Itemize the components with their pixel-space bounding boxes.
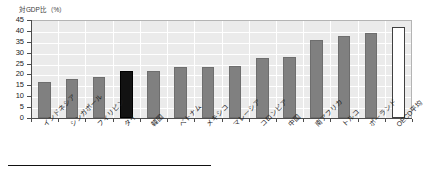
footer-divider (8, 165, 211, 166)
y-axis-tick-label: 40 (4, 27, 24, 35)
chart-axis-title: 対GDP比（%） (19, 6, 66, 14)
y-axis-tick-label: 15 (4, 81, 24, 89)
y-axis-tick-label: 25 (4, 60, 24, 68)
bar-中国 (283, 57, 296, 118)
bar-タイ (120, 71, 133, 118)
y-axis-tick-label: 10 (4, 92, 24, 100)
bar-コロンビア (256, 58, 269, 118)
bar-南アフリカ (310, 40, 323, 118)
bar-ポーランド (365, 33, 378, 118)
y-axis-tick-label: 45 (4, 16, 24, 24)
y-axis-tick-label: 35 (4, 38, 24, 46)
y-axis-tick-label: 30 (4, 49, 24, 57)
bar-韓国 (147, 71, 160, 118)
bar-インドネシア (38, 82, 51, 118)
bar-マレーシア (229, 66, 242, 118)
bar-ベトナム (174, 67, 187, 118)
bar-メキシコ (202, 67, 215, 118)
y-axis-tick-label: 5 (4, 103, 24, 111)
y-axis-tick-label: 20 (4, 70, 24, 78)
